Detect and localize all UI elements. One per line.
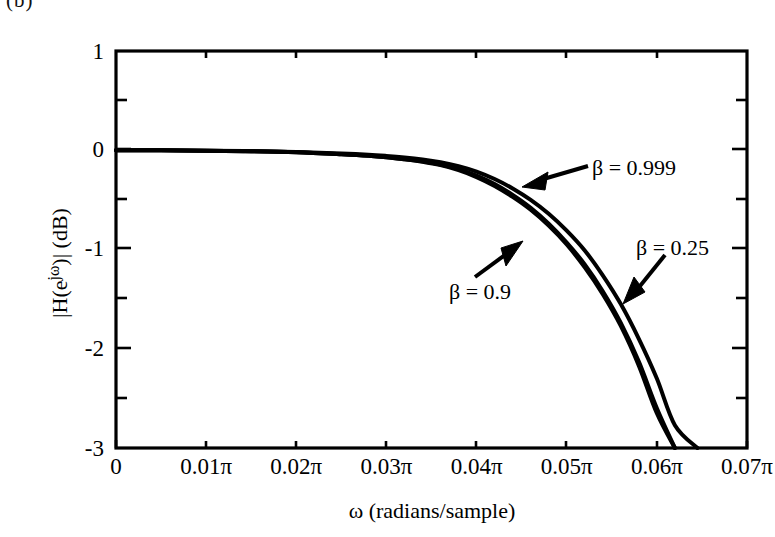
curve-beta-0-25 — [116, 150, 675, 448]
y-tick-label: 0 — [93, 138, 105, 161]
annotation-beta-025: β = 0.25 — [636, 237, 709, 259]
figure-root: (b) — [0, 0, 775, 537]
x-tick-label: 0.05π — [541, 455, 593, 478]
x-tick-label: 0.06π — [631, 455, 683, 478]
arrow-beta-025 — [623, 255, 665, 304]
arrow-beta-0999 — [522, 166, 588, 190]
x-tick-label: 0.07π — [721, 455, 773, 478]
x-tick-label: 0.03π — [360, 455, 412, 478]
annotation-beta-09: β = 0.9 — [449, 281, 511, 303]
annotation-beta-0999: β = 0.999 — [592, 157, 676, 179]
arrow-beta-09 — [475, 241, 523, 277]
x-axis-title: ω (radians/sample) — [349, 498, 516, 524]
x-tick-label: 0.01π — [180, 455, 232, 478]
y-axis-ticks — [116, 100, 131, 398]
x-tick-label: 0 — [110, 455, 122, 478]
y-axis-title: |H(ejω)| (dB) — [47, 143, 73, 383]
y-axis-title-exponent: jω — [45, 266, 62, 281]
y-tick-label: -1 — [85, 237, 104, 260]
y-tick-label: 1 — [93, 40, 105, 63]
y-tick-label: -2 — [85, 337, 104, 360]
curve-beta-0-9 — [116, 150, 675, 448]
y-tick-label: -3 — [85, 437, 104, 460]
x-tick-label: 0.02π — [270, 455, 322, 478]
data-curves — [116, 150, 697, 448]
y-axis-title-prefix: |H(e — [47, 281, 72, 318]
x-tick-label: 0.04π — [451, 455, 503, 478]
curve-beta-0-999 — [116, 150, 697, 448]
y-axis-title-suffix: )| (dB) — [47, 208, 72, 266]
y-axis-ticks-right — [732, 100, 747, 398]
